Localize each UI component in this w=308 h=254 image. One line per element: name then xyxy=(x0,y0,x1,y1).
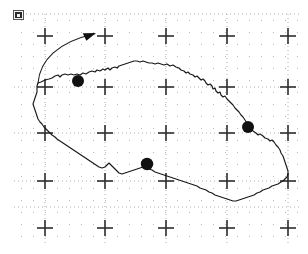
grid-dot xyxy=(21,68,22,69)
grid-dot xyxy=(141,200,142,201)
city-dot-ostrava[interactable] xyxy=(242,121,254,133)
grid-dot xyxy=(201,176,202,177)
grid-dot xyxy=(201,164,202,165)
grid-dot xyxy=(81,200,82,201)
grid-dot xyxy=(129,92,130,93)
curved-pointer-arrow-head xyxy=(83,33,96,41)
north-arrow-icon xyxy=(15,12,22,18)
grid-dot xyxy=(213,140,214,141)
grid-dot xyxy=(285,140,286,141)
grid-dot xyxy=(57,20,58,21)
grid-dot xyxy=(93,188,94,189)
grid-dot xyxy=(261,152,262,153)
grid-dot xyxy=(297,104,298,105)
grid-dot xyxy=(237,32,238,33)
grid-dot xyxy=(297,32,298,33)
grid-dot xyxy=(129,164,130,165)
grid-dot xyxy=(81,104,82,105)
grid-dot xyxy=(57,224,58,225)
grid-dot xyxy=(177,128,178,129)
grid-dot xyxy=(105,152,106,153)
grid-dot xyxy=(249,200,250,201)
map-viewport xyxy=(0,0,308,254)
grid-dot xyxy=(93,56,94,57)
grid-dot xyxy=(189,44,190,45)
grid-dot xyxy=(177,152,178,153)
north-arrow-badge[interactable] xyxy=(13,10,24,20)
grid-dot xyxy=(201,224,202,225)
grid-dot xyxy=(93,32,94,33)
grid-dot xyxy=(285,200,286,201)
grid-dot xyxy=(153,68,154,69)
grid-dot xyxy=(21,176,22,177)
grid-dot xyxy=(165,44,166,45)
grid-dot xyxy=(141,92,142,93)
grid-dot xyxy=(261,200,262,201)
grid-dot xyxy=(285,116,286,117)
grid-dot xyxy=(237,80,238,81)
city-dot-brno[interactable] xyxy=(141,158,153,170)
grid-dot xyxy=(189,176,190,177)
grid-dot xyxy=(141,140,142,141)
grid-dot xyxy=(141,20,142,21)
grid-dot xyxy=(273,164,274,165)
grid-dot xyxy=(45,212,46,213)
grid-dot xyxy=(249,20,250,21)
grid-dot xyxy=(189,116,190,117)
grid-dot xyxy=(105,164,106,165)
grid-cross-marker xyxy=(219,79,235,95)
grid-cross-marker xyxy=(37,173,53,189)
grid-dot xyxy=(69,224,70,225)
grid-dot xyxy=(33,164,34,165)
grid-dot xyxy=(297,20,298,21)
grid-dot xyxy=(237,236,238,237)
grid-dot xyxy=(69,200,70,201)
grid-dot xyxy=(261,32,262,33)
grid-dot xyxy=(201,32,202,33)
grid-dot xyxy=(213,44,214,45)
grid-dot xyxy=(21,236,22,237)
grid-dot xyxy=(81,224,82,225)
grid-dot xyxy=(273,128,274,129)
grid-dot xyxy=(213,56,214,57)
grid-dot xyxy=(45,152,46,153)
grid-dot xyxy=(189,140,190,141)
grid-dot xyxy=(21,20,22,21)
grid-dot xyxy=(153,116,154,117)
grid-dot xyxy=(93,68,94,69)
grid-dot xyxy=(261,116,262,117)
grid-dot xyxy=(249,116,250,117)
grid-dot xyxy=(237,212,238,213)
grid-dot xyxy=(249,188,250,189)
grid-dot xyxy=(57,188,58,189)
grid-dot xyxy=(213,164,214,165)
grid-dot xyxy=(69,188,70,189)
city-dot-prague[interactable] xyxy=(72,75,84,87)
grid-dot xyxy=(213,212,214,213)
grid-dot xyxy=(249,92,250,93)
grid-dot xyxy=(165,20,166,21)
grid-dot xyxy=(153,20,154,21)
grid-dot xyxy=(153,200,154,201)
grid-dot xyxy=(57,152,58,153)
grid-dot xyxy=(69,32,70,33)
grid-dot xyxy=(117,224,118,225)
grid-cross-marker xyxy=(37,28,53,44)
grid-dot xyxy=(45,200,46,201)
grid-dot xyxy=(297,80,298,81)
grid-dot xyxy=(177,188,178,189)
grid-dot xyxy=(237,56,238,57)
grid-dot xyxy=(225,92,226,93)
grid-dot xyxy=(177,80,178,81)
grid-dot xyxy=(141,44,142,45)
grid-dot xyxy=(129,68,130,69)
grid-dot xyxy=(81,176,82,177)
grid-dot xyxy=(225,236,226,237)
grid-dot xyxy=(21,224,22,225)
grid-dot xyxy=(105,56,106,57)
grid-dot xyxy=(21,128,22,129)
grid-dot xyxy=(297,176,298,177)
grid-dot xyxy=(189,200,190,201)
grid-dot xyxy=(69,68,70,69)
grid-dot xyxy=(33,236,34,237)
